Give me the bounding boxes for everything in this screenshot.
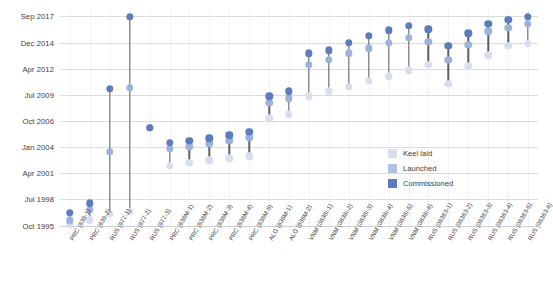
- launched-dot: [305, 61, 312, 68]
- launched-dot: [285, 94, 292, 101]
- launched-dot: [465, 41, 472, 48]
- commissioned-dot: [365, 32, 372, 39]
- keel-laid-dot: [206, 156, 213, 163]
- x-axis-labels: PRC (636-1)PRC (636-2)RUS (677-1)RUS (67…: [60, 238, 538, 295]
- commissioned-dot: [345, 39, 352, 46]
- keel-laid-dot: [226, 155, 233, 162]
- y-axis-tick-label: Apr 2001: [22, 169, 54, 178]
- launched-dot: [405, 34, 412, 41]
- launched-dot: [106, 148, 113, 155]
- commissioned-dot: [524, 13, 531, 20]
- keel-laid-dot: [504, 42, 511, 49]
- keel-laid-dot: [166, 162, 173, 169]
- legend-item[interactable]: Keel laid: [388, 146, 508, 161]
- commissioned-dot: [265, 93, 272, 100]
- legend-swatch-icon: [388, 164, 397, 173]
- y-axis-tick-label: Dec 2014: [21, 38, 54, 47]
- gridline: [60, 121, 538, 122]
- keel-laid-dot: [524, 40, 531, 47]
- keel-laid-dot: [425, 61, 432, 68]
- keel-laid-dot: [345, 83, 352, 90]
- keel-laid-dot: [186, 159, 193, 166]
- keel-laid-dot: [305, 93, 312, 100]
- launched-dot: [265, 99, 272, 106]
- commissioned-dot: [86, 199, 93, 206]
- connector-stem: [129, 17, 130, 212]
- keel-laid-dot: [485, 51, 492, 58]
- gridline: [60, 199, 538, 200]
- y-axis-tick-label: Jul 1998: [24, 195, 54, 204]
- legend-item-label: Commissioned: [403, 179, 453, 188]
- keel-laid-dot: [285, 111, 292, 118]
- connector-stem: [368, 36, 369, 81]
- commissioned-dot: [66, 209, 73, 216]
- keel-laid-dot: [365, 77, 372, 84]
- keel-laid-dot: [246, 153, 253, 160]
- y-axis-tick-label: Sep 2017: [21, 12, 54, 21]
- y-axis-tick-label: Oct 2006: [22, 116, 54, 125]
- launched-dot: [385, 39, 392, 46]
- keel-laid-dot: [385, 72, 392, 79]
- commissioned-dot: [126, 13, 133, 20]
- y-axis-labels: Oct 1995Jul 1998Apr 2001Jan 2004Oct 2006…: [0, 8, 54, 236]
- gridline: [60, 95, 538, 96]
- y-axis-tick-label: Apr 2012: [22, 64, 54, 73]
- legend-item-label: Keel laid: [403, 149, 432, 158]
- launched-dot: [425, 38, 432, 45]
- connector-stem: [468, 33, 469, 65]
- commissioned-dot: [504, 16, 511, 23]
- y-axis-tick-label: Jan 2004: [22, 143, 54, 152]
- commissioned-dot: [385, 27, 392, 34]
- legend-swatch-icon: [388, 179, 397, 188]
- connector-stem: [308, 53, 309, 96]
- commissioned-dot: [325, 47, 332, 54]
- connector-stem: [428, 29, 429, 64]
- launched-dot: [126, 84, 133, 91]
- legend-item-label: Launched: [403, 164, 436, 173]
- keel-laid-dot: [445, 80, 452, 87]
- launched-dot: [445, 56, 452, 63]
- launched-dot: [365, 45, 372, 52]
- launched-dot: [504, 24, 511, 31]
- keel-laid-dot: [405, 67, 412, 74]
- commissioned-dot: [305, 50, 312, 57]
- commissioned-dot: [425, 26, 432, 33]
- connector-stem: [448, 46, 449, 84]
- launched-dot: [325, 56, 332, 63]
- commissioned-dot: [445, 42, 452, 49]
- gridline: [60, 69, 538, 70]
- commissioned-dot: [465, 30, 472, 37]
- launched-dot: [524, 20, 531, 27]
- legend-item[interactable]: Commissioned: [388, 176, 508, 191]
- launched-dot: [485, 28, 492, 35]
- commissioned-dot: [106, 85, 113, 92]
- connector-stem: [408, 26, 409, 71]
- y-axis-tick-label: Jul 2009: [24, 90, 54, 99]
- launched-dot: [345, 50, 352, 57]
- legend-item[interactable]: Launched: [388, 161, 508, 176]
- legend-swatch-icon: [388, 149, 397, 158]
- connector-stem: [388, 30, 389, 76]
- chart-legend: Keel laidLaunchedCommissioned: [388, 146, 508, 191]
- y-axis-tick-label: Oct 1995: [22, 221, 54, 230]
- commissioned-dot: [146, 124, 153, 131]
- commissioned-dot: [485, 20, 492, 27]
- commissioned-dot: [405, 22, 412, 29]
